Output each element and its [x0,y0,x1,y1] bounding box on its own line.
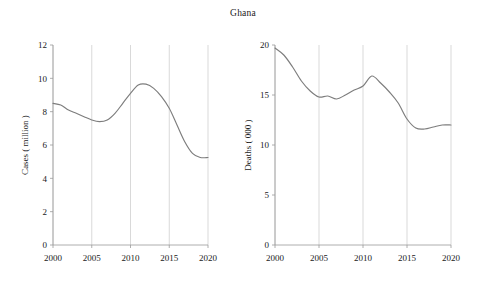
chart-panel-cases: 02468101220002005201020152020Cases ( mil… [0,0,243,284]
x-tick-label: 2005 [310,253,329,263]
y-tick-label: 4 [43,174,48,184]
y-tick-label: 10 [38,74,48,84]
y-tick-label: 12 [38,40,47,50]
y-tick-label: 8 [43,107,48,117]
x-tick-label: 2015 [398,253,417,263]
y-tick-label: 2 [43,207,48,217]
x-tick-label: 2010 [122,253,141,263]
x-tick-label: 2010 [354,253,373,263]
figure-container: Ghana 02468101220002005201020152020Cases… [0,0,486,284]
y-tick-label: 6 [43,140,48,150]
cases-line-chart: 02468101220002005201020152020Cases ( mil… [0,0,243,284]
x-tick-label: 2005 [83,253,102,263]
chart-panel-deaths: 0510152020002005201020152020Deaths ( 000… [243,0,486,284]
x-tick-label: 2020 [442,253,461,263]
x-tick-label: 2000 [266,253,285,263]
y-tick-label: 15 [260,90,270,100]
y-tick-label: 0 [43,240,48,250]
y-axis-title: Cases ( million ) [20,115,30,175]
y-tick-label: 5 [265,190,270,200]
y-axis-title: Deaths ( 000 ) [243,119,253,170]
y-tick-label: 0 [265,240,270,250]
deaths-line-chart: 0510152020002005201020152020Deaths ( 000… [243,0,486,284]
x-tick-label: 2000 [44,253,63,263]
y-tick-label: 10 [260,140,270,150]
x-tick-label: 2015 [160,253,179,263]
x-tick-label: 2020 [199,253,218,263]
y-tick-label: 20 [260,40,270,50]
